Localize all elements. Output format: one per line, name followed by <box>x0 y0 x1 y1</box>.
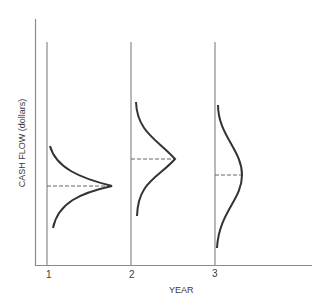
year-1-label: 1 <box>46 269 52 280</box>
year-2-label: 2 <box>129 269 135 280</box>
year-3-distribution-curve <box>217 105 242 248</box>
year-1-distribution-curve <box>50 146 112 228</box>
cash-flow-diagram: 1 2 3 YEAR CASH FLOW (dollars) <box>0 0 325 307</box>
x-axis-label: YEAR <box>169 285 194 295</box>
year-3-label: 3 <box>212 268 218 279</box>
y-axis-label: CASH FLOW (dollars) <box>17 99 27 188</box>
